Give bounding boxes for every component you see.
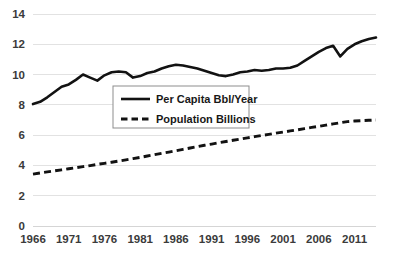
legend-item-label: Population Billions [156, 113, 256, 125]
x-tick-label: 1971 [56, 233, 82, 245]
y-tick-label: 2 [19, 190, 25, 202]
chart-container: 02468101214 1966197119761981198619911996… [0, 0, 405, 264]
y-axis-tick-labels: 02468101214 [12, 8, 25, 232]
x-tick-label: 1976 [92, 233, 118, 245]
y-tick-label: 10 [12, 69, 25, 81]
y-tick-label: 6 [19, 129, 25, 141]
x-tick-label: 1996 [235, 233, 261, 245]
y-tick-label: 12 [12, 38, 25, 50]
x-tick-label: 1981 [127, 233, 153, 245]
legend-item-label: Per Capita Bbl/Year [156, 93, 258, 105]
x-tick-label: 1966 [20, 233, 46, 245]
line-chart: 02468101214 1966197119761981198619911996… [0, 0, 405, 264]
x-tick-label: 1986 [163, 233, 189, 245]
x-axis-tick-labels: 1966197119761981198619911996200120062011 [20, 233, 367, 245]
x-tick-label: 2001 [270, 233, 296, 245]
y-tick-label: 14 [12, 8, 25, 20]
x-tick-label: 2011 [342, 233, 368, 245]
y-tick-label: 0 [19, 220, 25, 232]
x-tick-label: 1991 [199, 233, 225, 245]
x-tick-label: 2006 [306, 233, 332, 245]
y-tick-label: 4 [19, 159, 26, 171]
y-tick-label: 8 [19, 99, 26, 111]
chart-legend: Per Capita Bbl/YearPopulation Billions [113, 86, 258, 128]
